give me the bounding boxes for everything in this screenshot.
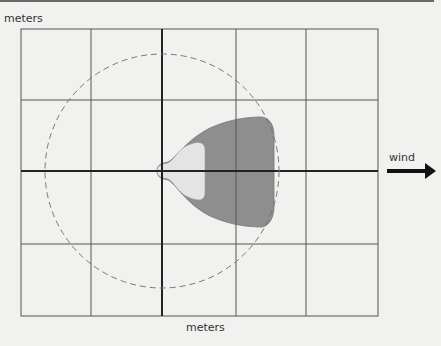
wind-arrow-icon <box>387 163 436 179</box>
plume-diagram <box>0 0 441 346</box>
